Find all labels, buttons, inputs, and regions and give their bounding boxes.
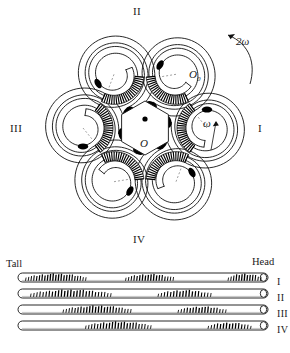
quadrant-label-right: I: [258, 123, 262, 134]
subcenter-point-label: O0: [189, 69, 200, 83]
quadrant-label-bottom: IV: [133, 234, 145, 245]
subcenter-subscript: 0: [197, 75, 201, 83]
figure-canvas: [0, 0, 290, 353]
filament-row-label-2: II: [277, 293, 284, 303]
filament-row: [18, 273, 268, 282]
quadrant-label-left: III: [10, 123, 22, 134]
filament-row: [18, 289, 268, 298]
filament-row-label-4: IV: [277, 325, 288, 335]
filament-row-label-3: III: [277, 309, 288, 319]
circular-diagram: [46, 34, 253, 220]
figure-page: II I IV III 2ω ω O O0 Tall Head I II III…: [0, 0, 290, 353]
filament-row: [18, 321, 268, 330]
filament-row: [18, 305, 268, 314]
filament-diagram: [18, 273, 268, 330]
inner-angular-velocity-label: ω: [203, 118, 211, 129]
filament-row-label-1: I: [277, 277, 281, 287]
outer-angular-velocity-label: 2ω: [236, 36, 249, 47]
quadrant-label-top: II: [133, 6, 141, 17]
filament-tail-label: Tall: [6, 259, 22, 270]
subcenter-letter: O: [189, 68, 197, 80]
filament-head-label: Head: [252, 257, 274, 268]
center-point-label: O: [140, 138, 148, 149]
